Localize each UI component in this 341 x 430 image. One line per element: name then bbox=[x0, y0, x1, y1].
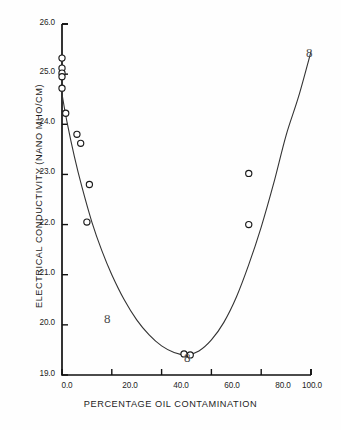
xtick-label-0: 0.0 bbox=[47, 381, 87, 390]
ytick-label-19: 19.0 bbox=[29, 369, 55, 378]
y-axis-title-wrap: ELECTRICAL CONDUCTIVITY (NANO MHO/CM) bbox=[34, 31, 50, 361]
ytick-label-26: 26.0 bbox=[29, 18, 55, 27]
x-axis-title: PERCENTAGE OIL CONTAMINATION bbox=[0, 399, 341, 409]
xtick-label-100: 100.0 bbox=[292, 381, 332, 390]
annotation-8-topright: 8 bbox=[306, 45, 313, 61]
axes-frame bbox=[62, 24, 311, 375]
chart-figure: 26.0 25.0 24.0 23.0 22.0 21.0 20.0 19.0 … bbox=[0, 0, 341, 430]
annotation-8-bottom: 8 bbox=[184, 350, 191, 366]
annotation-8-left: 8 bbox=[104, 311, 111, 327]
plot-area bbox=[0, 0, 341, 430]
fitted-curve bbox=[62, 52, 311, 355]
y-axis-title: ELECTRICAL CONDUCTIVITY (NANO MHO/CM) bbox=[34, 31, 44, 361]
xtick-label-20: 20.0 bbox=[110, 381, 150, 390]
xtick-label-60: 60.0 bbox=[212, 381, 252, 390]
xtick-label-40: 40.0 bbox=[161, 381, 201, 390]
